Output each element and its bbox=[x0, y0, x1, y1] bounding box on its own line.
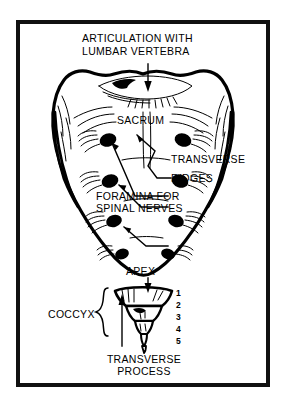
label-transverse-ridges-line2: RIDGES bbox=[171, 172, 213, 184]
label-foramina-line2: SPINAL NERVES bbox=[96, 202, 183, 214]
leader-transverse-process bbox=[119, 294, 126, 346]
coccyx-number-2: 2 bbox=[176, 300, 181, 310]
label-sacrum: SACRUM bbox=[117, 114, 164, 126]
label-coccyx: COCCYX bbox=[48, 308, 95, 320]
label-transverse-ridges-line1: TRANSVERSE bbox=[171, 153, 245, 165]
coccyx-number-4: 4 bbox=[176, 324, 181, 334]
label-apex: APEX bbox=[126, 265, 155, 277]
coccyx-brace bbox=[96, 288, 108, 336]
sacrum-coccyx-diagram: ARTICULATION WITH LUMBAR VERTEBRA SACRUM… bbox=[0, 0, 286, 407]
label-articulation-line2: LUMBAR VERTEBRA bbox=[82, 45, 190, 57]
coccyx-number-5: 5 bbox=[176, 336, 181, 346]
label-articulation-line1: ARTICULATION WITH bbox=[82, 32, 193, 44]
coccyx-number-1: 1 bbox=[176, 288, 181, 298]
label-transverse-process-line2: PROCESS bbox=[117, 365, 170, 377]
label-transverse-process-line1: TRANSVERSE bbox=[107, 353, 181, 365]
coccyx-body bbox=[115, 287, 172, 353]
coccyx-number-3: 3 bbox=[176, 312, 181, 322]
label-foramina-line1: FORAMINA FOR bbox=[96, 190, 180, 202]
